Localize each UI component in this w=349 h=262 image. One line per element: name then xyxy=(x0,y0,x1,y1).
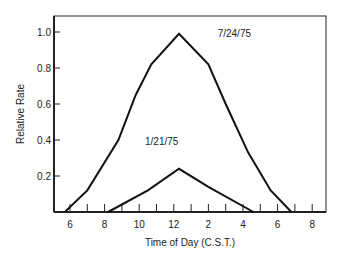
y-axis-label: Relative Rate xyxy=(15,84,26,144)
series-line-0 xyxy=(65,34,292,212)
x-axis-ticks: 6810122468 xyxy=(67,204,315,230)
y-tick-label: 0.8 xyxy=(37,63,51,74)
series-label-1: 1/21/75 xyxy=(145,136,179,147)
relative-rate-chart: 0.20.40.60.81.0 6810122468 7/24/751/21/7… xyxy=(0,0,349,262)
x-tick-label: 4 xyxy=(240,219,246,230)
x-tick-label: 8 xyxy=(309,219,315,230)
y-tick-label: 1.0 xyxy=(37,27,51,38)
y-tick-label: 0.6 xyxy=(37,99,51,110)
y-tick-label: 0.2 xyxy=(37,171,51,182)
x-tick-label: 6 xyxy=(275,219,281,230)
x-axis-label: Time of Day (C.S.T.) xyxy=(145,237,235,248)
x-tick-label: 6 xyxy=(67,219,73,230)
series-line-1 xyxy=(108,169,253,212)
series-label-0: 7/24/75 xyxy=(218,28,252,39)
x-tick-label: 12 xyxy=(168,219,180,230)
x-tick-label: 8 xyxy=(102,219,108,230)
y-axis-ticks: 0.20.40.60.81.0 xyxy=(37,27,60,182)
data-series: 7/24/751/21/75 xyxy=(65,28,292,212)
x-tick-label: 2 xyxy=(206,219,212,230)
y-tick-label: 0.4 xyxy=(37,135,51,146)
x-tick-label: 10 xyxy=(134,219,146,230)
chart-canvas: 0.20.40.60.81.0 6810122468 7/24/751/21/7… xyxy=(0,0,349,262)
